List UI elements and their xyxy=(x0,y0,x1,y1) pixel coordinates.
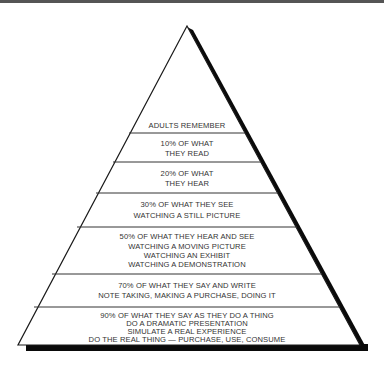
svg-text:70% OF WHAT THEY SAY AND WRITE: 70% OF WHAT THEY SAY AND WRITE xyxy=(118,281,256,290)
svg-text:50% OF WHAT THEY HEAR AND SEE: 50% OF WHAT THEY HEAR AND SEE xyxy=(120,232,255,241)
svg-text:20% OF WHAT: 20% OF WHAT xyxy=(161,169,214,178)
svg-text:THEY HEAR: THEY HEAR xyxy=(165,179,210,188)
pyramid-header: ADULTS REMEMBER xyxy=(149,121,226,130)
level-2: 20% OF WHAT THEY HEAR xyxy=(161,169,214,188)
svg-text:30% OF WHAT THEY SEE: 30% OF WHAT THEY SEE xyxy=(140,200,233,209)
svg-text:10% OF WHAT: 10% OF WHAT xyxy=(161,139,214,148)
level-5: 70% OF WHAT THEY SAY AND WRITE NOTE TAKI… xyxy=(98,281,276,300)
svg-text:WATCHING A DEMONSTRATION: WATCHING A DEMONSTRATION xyxy=(128,260,245,269)
svg-text:WATCHING AN EXHIBIT: WATCHING AN EXHIBIT xyxy=(144,251,231,260)
svg-text:WATCHING A STILL PICTURE: WATCHING A STILL PICTURE xyxy=(134,211,241,220)
level-1: 10% OF WHAT THEY READ xyxy=(161,139,214,158)
cone-of-experience-pyramid: ADULTS REMEMBER 10% OF WHAT THEY READ 20… xyxy=(0,0,384,371)
level-4: 50% OF WHAT THEY HEAR AND SEE WATCHING A… xyxy=(120,232,255,269)
svg-text:WATCHING A MOVING PICTURE: WATCHING A MOVING PICTURE xyxy=(128,242,246,251)
svg-text:NOTE TAKING, MAKING A PURCHASE: NOTE TAKING, MAKING A PURCHASE, DOING IT xyxy=(98,291,276,300)
svg-text:THEY READ: THEY READ xyxy=(165,149,210,158)
svg-text:DO THE REAL THING — PURCHASE,: DO THE REAL THING — PURCHASE, USE, CONSU… xyxy=(89,335,286,344)
